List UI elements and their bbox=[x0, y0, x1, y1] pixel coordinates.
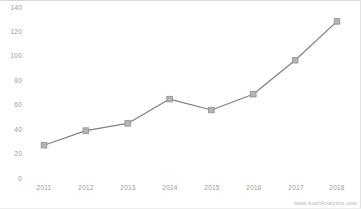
data-series-line bbox=[44, 21, 337, 145]
x-axis-tick-2014: 2014 bbox=[153, 184, 187, 191]
data-point-marker-2014 bbox=[167, 96, 173, 102]
data-point-marker-2012 bbox=[83, 128, 89, 134]
data-point-marker-2016 bbox=[251, 91, 257, 97]
data-point-marker-2017 bbox=[292, 57, 298, 63]
line-chart: 140 120 100 80 60 40 20 0 2011 2012 2013… bbox=[0, 0, 361, 209]
x-axis-tick-2013: 2013 bbox=[111, 184, 145, 191]
x-axis-tick-2016: 2016 bbox=[237, 184, 271, 191]
watermark-text: www.AuditAnalytics.com bbox=[294, 200, 357, 206]
x-axis-tick-2012: 2012 bbox=[69, 184, 103, 191]
x-axis-tick-2018: 2018 bbox=[320, 184, 354, 191]
x-axis-tick-2017: 2017 bbox=[279, 184, 313, 191]
data-point-marker-2011 bbox=[41, 142, 47, 148]
plot-area bbox=[0, 0, 361, 209]
data-point-marker-2013 bbox=[125, 121, 131, 127]
x-axis-tick-2015: 2015 bbox=[195, 184, 229, 191]
x-axis-tick-2011: 2011 bbox=[27, 184, 61, 191]
data-point-marker-2015 bbox=[209, 107, 215, 113]
data-point-marker-2018 bbox=[334, 19, 340, 25]
